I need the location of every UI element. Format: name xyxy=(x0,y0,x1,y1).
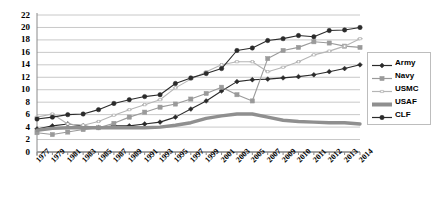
y-axis-tick-label: 20 xyxy=(8,23,30,32)
legend-swatch-icon xyxy=(371,83,393,94)
legend-swatch-icon xyxy=(371,57,393,68)
series-layer xyxy=(34,25,362,136)
data-point xyxy=(96,107,100,111)
data-point xyxy=(250,99,254,103)
data-point xyxy=(142,94,146,98)
data-point xyxy=(158,93,162,97)
data-point xyxy=(358,62,363,67)
legend-marker xyxy=(380,63,385,68)
y-axis-tick-label: 10 xyxy=(8,85,30,94)
data-point xyxy=(204,91,208,95)
data-point xyxy=(127,115,131,119)
y-axis-tick-label: 16 xyxy=(8,48,30,57)
y-axis-tick-label: 2 xyxy=(8,135,30,144)
data-point xyxy=(188,107,193,112)
data-point xyxy=(235,93,239,97)
data-point xyxy=(236,61,238,63)
data-point xyxy=(127,97,131,101)
data-point xyxy=(327,41,331,45)
data-point xyxy=(250,77,255,82)
data-point xyxy=(235,79,240,84)
data-point xyxy=(281,75,286,80)
legend-item-usmc[interactable]: USMC xyxy=(371,82,427,95)
legend-label: USMC xyxy=(395,83,419,94)
axis-lines xyxy=(37,13,360,156)
data-point xyxy=(251,61,253,63)
legend-swatch-icon xyxy=(371,70,393,81)
legend-label: Navy xyxy=(395,70,414,81)
legend-label: USAF xyxy=(395,96,417,107)
legend-swatch-icon xyxy=(371,96,393,107)
y-axis-tick-label: 0 xyxy=(8,148,30,157)
legend-label: Army xyxy=(395,57,415,68)
legend-label: CLF xyxy=(395,109,411,120)
data-point xyxy=(296,74,301,79)
data-point xyxy=(128,108,130,110)
data-point xyxy=(220,64,222,66)
data-point xyxy=(342,66,347,71)
data-point xyxy=(296,45,300,49)
legend-item-navy[interactable]: Navy xyxy=(371,69,427,82)
data-point xyxy=(158,105,162,109)
data-point xyxy=(142,122,147,127)
data-point xyxy=(81,112,85,116)
data-point xyxy=(282,66,284,68)
legend-marker xyxy=(381,90,383,92)
data-point xyxy=(50,132,54,136)
data-point xyxy=(281,36,285,40)
data-point xyxy=(112,121,116,125)
data-point xyxy=(143,103,145,105)
y-axis-tick-label: 14 xyxy=(8,60,30,69)
data-point xyxy=(35,117,39,121)
data-point xyxy=(159,98,161,100)
y-axis-tick-label: 6 xyxy=(8,110,30,119)
data-point xyxy=(296,33,300,37)
y-axis-tick-label: 12 xyxy=(8,73,30,82)
legend-item-army[interactable]: Army xyxy=(371,56,427,69)
data-point xyxy=(113,114,115,116)
legend-swatch-icon xyxy=(371,109,393,120)
data-point xyxy=(250,46,254,50)
data-point xyxy=(358,25,362,29)
data-point xyxy=(267,70,269,72)
data-point xyxy=(219,66,223,70)
data-point xyxy=(313,54,315,56)
data-point xyxy=(312,35,316,39)
data-point xyxy=(312,40,316,44)
legend-item-usaf[interactable]: USAF xyxy=(371,95,427,108)
legend-item-clf[interactable]: CLF xyxy=(371,108,427,121)
data-point xyxy=(112,101,116,105)
data-point xyxy=(311,72,316,77)
data-point xyxy=(281,48,285,52)
legend-marker xyxy=(380,76,384,80)
data-point xyxy=(219,85,223,89)
data-point xyxy=(266,38,270,42)
series-line xyxy=(37,39,360,126)
data-point xyxy=(359,37,361,39)
data-point xyxy=(50,115,54,119)
data-point xyxy=(343,45,345,47)
data-point xyxy=(266,56,270,60)
data-point xyxy=(327,28,331,32)
y-axis-tick-label: 8 xyxy=(8,98,30,107)
y-axis-tick-label: 4 xyxy=(8,123,30,132)
data-point xyxy=(66,130,70,134)
data-point xyxy=(173,81,177,85)
line-chart: 0246810121416182022 19771979198119831985… xyxy=(0,0,435,199)
data-point xyxy=(358,45,362,49)
data-point xyxy=(189,76,193,80)
data-point xyxy=(342,28,346,32)
series-usaf xyxy=(37,114,360,130)
data-point xyxy=(235,48,239,52)
data-point xyxy=(297,61,299,63)
data-point xyxy=(173,115,178,120)
data-point xyxy=(67,123,69,125)
legend[interactable]: ArmyNavyUSMCUSAFCLF xyxy=(367,52,431,125)
data-point xyxy=(189,97,193,101)
data-point xyxy=(328,50,330,52)
data-point xyxy=(173,102,177,106)
legend-marker xyxy=(380,115,384,119)
y-axis-tick-label: 22 xyxy=(8,11,30,20)
data-point xyxy=(204,71,208,75)
series-line xyxy=(37,114,360,130)
